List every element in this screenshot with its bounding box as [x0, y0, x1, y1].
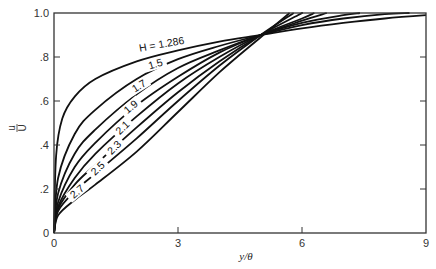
y-tick-label: .8: [40, 51, 49, 63]
y-axis-title-denominator: U: [17, 124, 28, 131]
x-tick-label: 0: [51, 237, 57, 249]
y-tick-label: 0: [43, 227, 49, 239]
y-axis-title-numerator: u: [6, 125, 17, 131]
y-tick-label: .6: [40, 95, 49, 107]
x-tick-label: 9: [423, 237, 429, 249]
y-axis-title: u U: [6, 124, 28, 132]
y-tick-label: .4: [40, 139, 49, 151]
curve-2-1: [54, 13, 314, 233]
curves-group: [54, 13, 426, 233]
curve-1-9: [54, 13, 327, 233]
x-tick-label: 3: [175, 237, 181, 249]
y-tick-label: .2: [40, 183, 49, 195]
curve-1-7: [54, 13, 360, 233]
x-tick-label: 6: [299, 237, 305, 249]
chart: H = 1.2861.51.71.92.12.32.52.7 03690.2.4…: [0, 0, 436, 269]
x-axis-title: y/θ: [238, 250, 253, 262]
y-tick-label: 1.0: [34, 7, 49, 19]
